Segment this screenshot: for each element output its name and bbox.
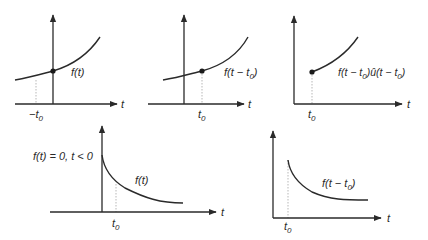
marker-dot (309, 69, 314, 74)
axis-label-t: t (407, 98, 411, 110)
growth-curve (15, 37, 100, 80)
tick-label: −t0 (29, 108, 43, 123)
condition-label: f(t) = 0, t < 0 (33, 150, 94, 162)
panel-causal-decay: t t0 f(t) f(t) = 0, t < 0 (33, 126, 225, 232)
tick-label: t0 (198, 108, 206, 123)
axis-label-t: t (121, 98, 125, 110)
tick-label: t0 (308, 108, 316, 123)
marker-dot (50, 68, 55, 73)
axis-label-t: t (221, 206, 225, 218)
curve-label: f(t) (71, 66, 85, 78)
curve-label: f(t) (135, 174, 149, 186)
time-shift-diagram: t −t0 f(t) t t0 f(t − t0) t t0 f(t − t0)… (0, 0, 428, 240)
tick-label: t0 (112, 217, 120, 232)
curve-label: f(t − t0) (224, 66, 258, 81)
panel-shift-left: t −t0 f(t) (15, 15, 125, 123)
panel-shift-right: t t0 f(t − t0) (148, 15, 258, 123)
panel-shift-right-truncated: t t0 f(t − t0)û(t − t0) (294, 16, 411, 123)
axis-label-t: t (248, 98, 252, 110)
marker-dot (199, 68, 204, 73)
curve-label: f(t − t0)û(t − t0) (338, 66, 405, 81)
curve-label: f(t − t0) (322, 177, 356, 192)
panel-causal-decay-shifted: t t0 f(t − t0) (273, 131, 391, 235)
axis-label-t: t (387, 212, 391, 224)
tick-label: t0 (284, 220, 292, 235)
